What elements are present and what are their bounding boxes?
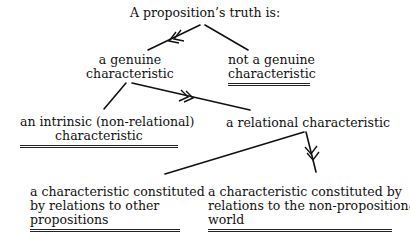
edge-relational-other — [165, 132, 304, 174]
node-relational: a relational characteristic — [226, 116, 376, 130]
root-label: A proposition’s truth is: — [130, 6, 280, 20]
edge-relational-nonprop — [306, 132, 316, 172]
node-non-propositional-world: a characteristic constituted by relation… — [208, 185, 392, 232]
node-other-propositions: a characteristic constituted by relation… — [30, 185, 180, 232]
edge-root-genuine — [148, 25, 200, 50]
edge-root-not-genuine — [205, 25, 248, 50]
node-intrinsic: an intrinsic (non-relational) characteri… — [20, 115, 178, 148]
double-arrow-icon — [169, 30, 184, 43]
node-genuine: a genuine characteristic — [80, 53, 180, 81]
node-not-genuine: not a genuine characteristic — [228, 53, 310, 86]
edge-genuine-intrinsic — [104, 83, 126, 109]
double-arrow-icon — [305, 146, 319, 160]
